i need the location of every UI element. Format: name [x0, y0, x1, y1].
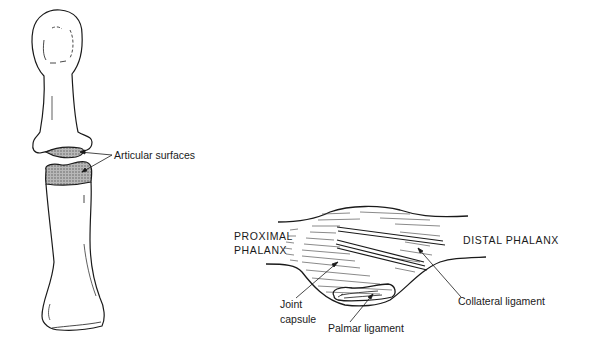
- label-proximal-line2: PHALANX: [234, 244, 287, 256]
- label-joint-line2: capsule: [280, 313, 316, 325]
- label-articular-surfaces: Articular surfaces: [114, 149, 195, 161]
- label-distal-phalanx: DISTAL PHALANX: [463, 234, 559, 246]
- label-palmar-ligament: Palmar ligament: [328, 322, 404, 334]
- label-collateral-ligament: Collateral ligament: [458, 295, 545, 307]
- label-joint-line1: Joint: [280, 298, 302, 310]
- upper-articular-surface: [46, 147, 83, 158]
- lower-articular-surface: [46, 162, 92, 185]
- collateral-ligament-bands: [336, 227, 445, 270]
- upper-phalanx-bone: [32, 10, 92, 153]
- joint-capsule-hatching: [284, 212, 440, 294]
- lower-phalanx-bone: [42, 182, 104, 330]
- label-proximal-line1: PROXIMAL: [234, 230, 293, 242]
- articular-leaders: [80, 150, 112, 172]
